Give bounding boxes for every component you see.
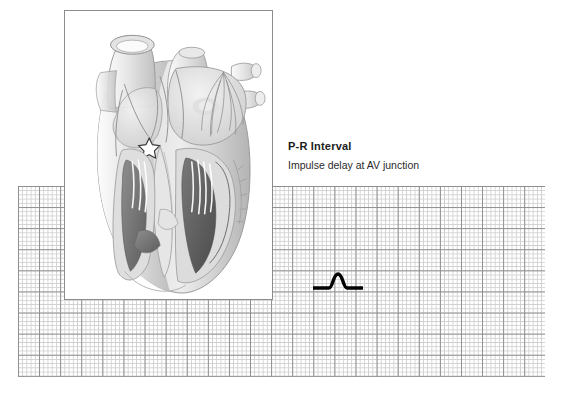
heart-cutaway-illustration <box>65 11 272 299</box>
superior-vena-cava <box>96 71 116 113</box>
caption-title: P-R Interval <box>288 140 538 152</box>
caption-block: P-R Interval Impulse delay at AV junctio… <box>288 140 538 171</box>
right-ventricle <box>113 149 155 280</box>
pr-interval-waveform <box>312 262 374 298</box>
figure-root: P-R Interval Impulse delay at AV junctio… <box>0 0 563 394</box>
caption-subtitle: Impulse delay at AV junction <box>288 159 538 171</box>
heart-illustration-panel <box>64 10 273 300</box>
ecg-waveform-svg <box>312 262 374 298</box>
